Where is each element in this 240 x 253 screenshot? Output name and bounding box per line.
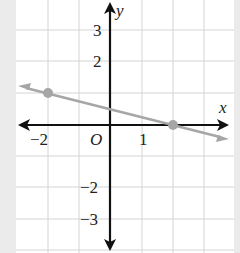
y-tick-label: −3: [80, 210, 98, 229]
y-tick-label: 3: [93, 21, 102, 40]
point-neg2-1: [43, 88, 53, 98]
coordinate-plane: y x O −2 1 3 2 −2 −3: [0, 0, 240, 253]
plot-area: [16, 0, 234, 253]
x-tick-label: −2: [30, 130, 48, 149]
origin-label: O: [90, 130, 102, 149]
x-axis-label: x: [218, 98, 227, 117]
x-tick-label: 1: [139, 130, 148, 149]
y-tick-label: −2: [80, 178, 98, 197]
y-tick-label: 2: [93, 52, 102, 71]
point-2-0: [168, 120, 178, 130]
y-axis-label: y: [114, 1, 124, 20]
